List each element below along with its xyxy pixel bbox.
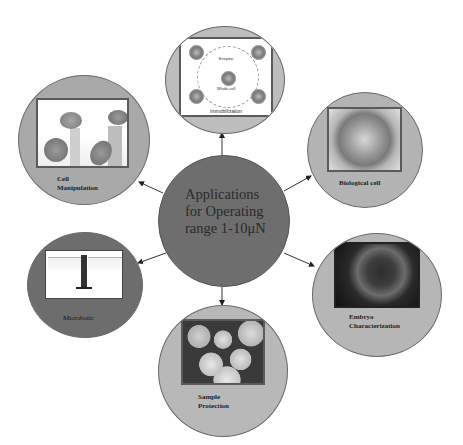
cell-icon — [108, 110, 128, 125]
biological-cell-label: Biological cell — [339, 179, 380, 188]
microbotic-label: Microbotic — [63, 314, 94, 323]
cell-manipulation-label: Cell Manipulation — [57, 175, 98, 193]
embryo-image — [334, 242, 420, 308]
cell-cluster-icon — [251, 89, 266, 104]
immobilization-caption: Immobilization — [181, 108, 271, 114]
sample-protection-label: Sample Protection — [198, 393, 229, 411]
connector-arrow-cell-manipulation — [139, 182, 163, 193]
biological-cell-image — [327, 107, 402, 172]
whole-cell-icon — [221, 71, 236, 86]
cell-manipulation-image — [36, 98, 129, 168]
connector-arrow-embryo-characterization — [284, 253, 314, 266]
aggregate-particle-icon — [189, 89, 204, 104]
virus-icon — [44, 138, 68, 162]
cell-icon — [60, 112, 82, 129]
node-microbotic: Microbotic — [27, 232, 143, 338]
node-sample-protection: Sample Protection — [158, 305, 288, 437]
pipette-pillar — [70, 128, 80, 168]
node-embryo-characterization: Embryo Characterization — [312, 233, 442, 357]
robofly-body-icon — [81, 255, 87, 289]
robofly-base — [76, 287, 92, 289]
wing-right — [88, 257, 122, 270]
embryo-characterization-label: Embryo Characterization — [349, 313, 400, 331]
connector-arrow-biological-cell — [284, 176, 311, 191]
sample-protection-image — [181, 319, 265, 385]
whole-cell-label: Whole-cell — [181, 86, 271, 91]
hub-title: Applications for Operating range 1-10μN — [185, 186, 285, 237]
wing-left — [48, 257, 82, 270]
immobilization-image: Enzyme Whole-cell Immobilization — [179, 37, 273, 117]
microbotic-image — [45, 250, 123, 299]
enzyme-label: Enzyme — [181, 56, 271, 61]
diagram-canvas: Enzyme Whole-cell Immobilization Cell Ma… — [0, 0, 463, 445]
connector-arrow-microbotic — [138, 253, 166, 263]
central-hub: Applications for Operating range 1-10μN — [158, 155, 290, 287]
node-cell-manipulation: Cell Manipulation — [18, 75, 150, 205]
node-biological-cell: Biological cell — [307, 92, 423, 208]
node-immobilization: Enzyme Whole-cell Immobilization — [165, 26, 285, 134]
